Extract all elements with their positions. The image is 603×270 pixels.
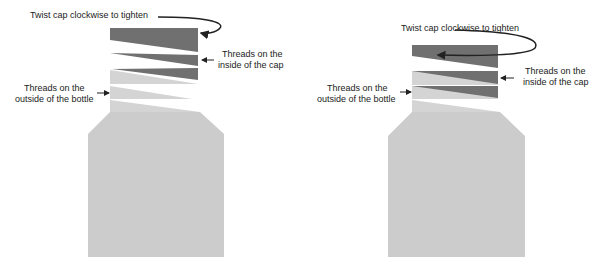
inside-label-line2: inside of the cap	[523, 77, 589, 87]
right-diagram: Twist cap clockwise to tighten Threads o…	[317, 23, 589, 257]
diagram-canvas: Twist cap clockwise to tighten Threads o…	[0, 0, 603, 270]
outside-label-line2: outside of the bottle	[317, 94, 396, 104]
inside-label-line2: inside of the cap	[218, 60, 284, 70]
inside-label-line1: Threads on the	[222, 49, 283, 59]
twist-label: Twist cap clockwise to tighten	[30, 10, 148, 20]
outside-label-line2: outside of the bottle	[15, 94, 94, 104]
inside-label-line1: Threads on the	[525, 66, 586, 76]
left-diagram: Twist cap clockwise to tighten Threads o…	[15, 10, 284, 257]
twist-label: Twist cap clockwise to tighten	[401, 23, 519, 33]
bottle-body	[388, 112, 525, 257]
bottle-body	[88, 112, 224, 257]
outside-label-line1: Threads on the	[24, 83, 85, 93]
outside-label-line1: Threads on the	[327, 83, 388, 93]
